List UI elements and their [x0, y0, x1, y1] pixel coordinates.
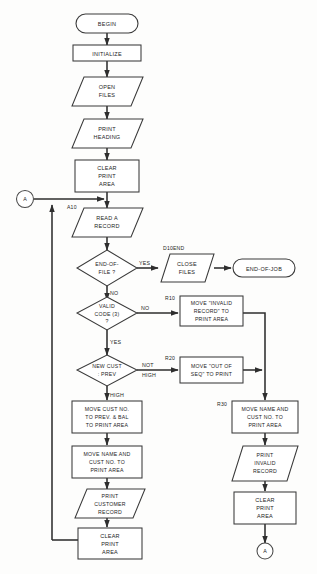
node-connector-a-left[interactable]: A: [17, 191, 34, 208]
node-move-out-of-seq-line1: MOVE "OUT OF: [191, 363, 232, 369]
node-move-cust-no-prev-bal-line1: MOVE CUST NO.: [85, 406, 130, 412]
node-clear-print-area-1-line3: AREA: [99, 181, 115, 187]
node-move-cust-no-prev-bal-line3: TO PRINT AREA: [86, 422, 129, 428]
node-new-cust-prev[interactable]: NEW CUST : PREV: [77, 355, 137, 386]
node-print-invalid-record-line3: RECORD: [253, 468, 277, 474]
node-open-files[interactable]: OPEN FILES: [72, 77, 143, 106]
paragraph-label-d10end: D10END: [163, 245, 184, 251]
node-initialize[interactable]: INITIALIZE: [73, 45, 141, 61]
node-print-customer-record-line1: PRINT: [102, 493, 119, 499]
branch-label-valid-no: NO: [141, 305, 149, 311]
node-print-heading-line2: HEADING: [94, 134, 121, 140]
node-move-invalid-record-line1: MOVE "INVALID: [191, 300, 233, 306]
node-connector-a-bottom-label: A: [263, 548, 267, 554]
node-move-invalid-record[interactable]: MOVE "INVALID RECORD" TO PRINT AREA: [180, 296, 243, 326]
node-clear-print-area-left-line1: CLEAR: [100, 533, 120, 539]
node-print-heading-line1: PRINT: [98, 126, 116, 132]
node-open-files-line1: OPEN: [99, 84, 116, 90]
node-move-cust-no-prev-bal-line2: TO PREV. & BAL: [85, 414, 128, 420]
node-connector-a-left-label: A: [23, 196, 27, 202]
node-print-customer-record-line2: CUSTOMER: [94, 501, 126, 507]
node-read-a-record-line1: READ A: [96, 215, 118, 221]
flow-lines: [34, 33, 265, 543]
paragraph-label-r20: R20: [165, 355, 175, 361]
node-move-out-of-seq-line2: SEQ" TO PRINT: [191, 371, 233, 377]
branch-label-eof-no: NO: [110, 290, 118, 296]
node-begin-label: BEGIN: [98, 21, 116, 27]
node-valid-code-line2: CODE (3): [95, 311, 120, 317]
node-move-invalid-record-line3: PRINT AREA: [195, 316, 229, 322]
node-move-name-cust-no-right[interactable]: MOVE NAME AND CUST NO. TO PRINT AREA: [232, 401, 298, 433]
node-close-files[interactable]: CLOSE FILES: [161, 254, 214, 282]
node-clear-print-area-right[interactable]: CLEAR PRINT AREA: [234, 492, 296, 524]
node-move-name-cust-no-left-line1: MOVE NAME AND: [83, 451, 130, 457]
node-clear-print-area-right-line3: AREA: [257, 513, 273, 519]
node-initialize-label: INITIALIZE: [92, 51, 122, 57]
node-clear-print-area-1[interactable]: CLEAR PRINT AREA: [75, 160, 139, 192]
node-end-of-file[interactable]: END-OF- FILE ?: [77, 250, 137, 286]
node-move-invalid-record-line2: RECORD" TO: [194, 308, 229, 314]
paragraph-label-r10: R10: [165, 295, 175, 301]
paragraph-label-a10: A10: [67, 204, 77, 210]
node-move-cust-no-prev-bal[interactable]: MOVE CUST NO. TO PREV. & BAL TO PRINT AR…: [72, 401, 142, 433]
node-clear-print-area-1-line1: CLEAR: [97, 165, 117, 171]
node-end-of-file-line1: END-OF-: [95, 261, 118, 267]
node-connector-a-bottom[interactable]: A: [257, 543, 273, 559]
node-clear-print-area-left-line2: PRINT: [101, 541, 119, 547]
node-move-name-cust-no-left-line3: PRINT AREA: [90, 467, 124, 473]
branch-label-cust-high-right: HIGH: [142, 372, 156, 378]
node-close-files-line1: CLOSE: [177, 261, 197, 267]
node-read-a-record[interactable]: READ A RECORD: [72, 208, 143, 237]
node-print-heading[interactable]: PRINT HEADING: [72, 119, 143, 148]
node-valid-code-line1: VALID: [99, 303, 115, 309]
node-clear-print-area-right-line1: CLEAR: [255, 497, 275, 503]
node-valid-code[interactable]: VALID CODE (3) ?: [77, 297, 137, 330]
node-clear-print-area-left[interactable]: CLEAR PRINT AREA: [78, 528, 142, 559]
program-flowchart: BEGIN INITIALIZE OPEN FILES PRINT HEADIN…: [0, 0, 317, 574]
paragraph-label-r30: R30: [217, 401, 227, 407]
node-clear-print-area-1-line2: PRINT: [98, 173, 116, 179]
branch-label-valid-yes: YES: [110, 339, 121, 345]
node-valid-code-line3: ?: [105, 318, 108, 324]
node-begin[interactable]: BEGIN: [76, 14, 138, 33]
node-move-name-cust-no-right-line3: PRINT AREA: [248, 422, 282, 428]
node-print-customer-record-line3: RECORD: [98, 509, 122, 515]
node-move-name-cust-no-right-line1: MOVE NAME AND: [241, 406, 288, 412]
node-move-out-of-seq[interactable]: MOVE "OUT OF SEQ" TO PRINT: [180, 357, 243, 383]
node-read-a-record-line2: RECORD: [94, 223, 119, 229]
node-clear-print-area-right-line2: PRINT: [256, 505, 274, 511]
node-move-name-cust-no-right-line2: CUST NO. TO: [247, 414, 283, 420]
node-end-of-file-line2: FILE ?: [99, 269, 116, 275]
branch-label-eof-yes: YES: [139, 260, 150, 266]
node-print-invalid-record-line2: INVALID: [254, 460, 276, 466]
node-move-name-cust-no-left-line2: CUST NO. TO: [89, 459, 125, 465]
node-close-files-line2: FILES: [179, 269, 196, 275]
branch-label-cust-not: NOT: [142, 362, 154, 368]
node-new-cust-prev-line2: : PREV: [98, 371, 117, 377]
node-print-invalid-record-line1: PRINT: [257, 452, 274, 458]
node-print-customer-record[interactable]: PRINT CUSTOMER RECORD: [75, 489, 145, 518]
node-end-of-job[interactable]: END-OF-JOB: [233, 259, 295, 277]
node-new-cust-prev-line1: NEW CUST: [92, 363, 122, 369]
node-end-of-job-label: END-OF-JOB: [246, 266, 282, 272]
node-open-files-line2: FILES: [99, 92, 116, 98]
branch-label-cust-high-down: HIGH: [110, 392, 124, 398]
line-r10-to-bus: [243, 313, 265, 370]
node-print-invalid-record[interactable]: PRINT INVALID RECORD: [232, 446, 298, 481]
node-move-name-cust-no-left[interactable]: MOVE NAME AND CUST NO. TO PRINT AREA: [72, 446, 142, 478]
node-clear-print-area-left-line3: AREA: [102, 549, 118, 555]
